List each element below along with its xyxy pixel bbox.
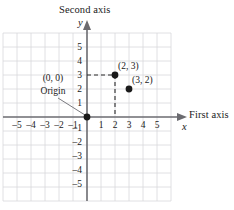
coordinate-plane-svg	[0, 0, 234, 210]
x-tick-label-1: 1	[94, 121, 108, 131]
x-tick-label-3: 3	[122, 121, 136, 131]
horizontal-axis-title: First axis	[189, 110, 229, 121]
x-tick-label-2: 2	[108, 121, 122, 131]
y-tick-label-neg3: –3	[68, 152, 82, 162]
y-tick-label-neg1: –1	[68, 124, 82, 134]
x-tick-label-neg2: –2	[52, 121, 66, 131]
x-tick-label-neg4: –4	[24, 121, 38, 131]
point-label-3-2: (3, 2)	[132, 76, 153, 86]
x-tick-label-neg5: –5	[10, 121, 24, 131]
y-tick-label-neg2: –2	[68, 138, 82, 148]
y-tick-label-neg5: –5	[68, 180, 82, 190]
y-tick-label-1: 1	[68, 99, 82, 109]
origin-coordinates-label: (0, 0)	[30, 74, 76, 84]
point-label-2-3: (2, 3)	[118, 62, 139, 72]
x-tick-label-5: 5	[150, 121, 164, 131]
point-3-2	[126, 86, 133, 93]
x-tick-label-4: 4	[136, 121, 150, 131]
point-2-3	[112, 72, 119, 79]
point-origin	[84, 114, 91, 121]
y-tick-label-neg4: –4	[68, 166, 82, 176]
origin-caption-label: Origin	[30, 87, 76, 97]
x-tick-label-neg3: –3	[38, 121, 52, 131]
x-variable-label: x	[182, 122, 187, 133]
y-tick-label-5: 5	[68, 43, 82, 53]
coordinate-plane-figure: Second axis First axis y x –5 –4 –3 –2 –…	[0, 0, 234, 210]
y-tick-label-4: 4	[68, 57, 82, 67]
vertical-axis-title: Second axis	[59, 5, 111, 16]
y-variable-label: y	[78, 18, 83, 29]
